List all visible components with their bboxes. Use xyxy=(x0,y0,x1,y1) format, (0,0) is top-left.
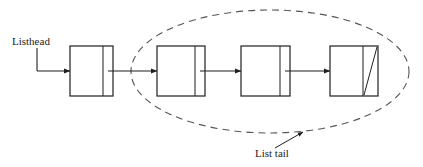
node-3 xyxy=(241,46,290,96)
node-2-box xyxy=(157,46,205,96)
node-4 xyxy=(330,46,378,96)
listhead-label: Listhead xyxy=(12,35,50,47)
node-1-box xyxy=(70,46,113,96)
list-tail-callout-line xyxy=(275,132,303,148)
linked-list-diagram: Listhead List tail xyxy=(0,0,423,167)
diagram-canvas: Listhead List tail xyxy=(0,0,423,167)
node-1 xyxy=(70,46,113,96)
node-3-box xyxy=(241,46,290,96)
node-2 xyxy=(157,46,205,96)
list-tail-label: List tail xyxy=(255,147,289,159)
